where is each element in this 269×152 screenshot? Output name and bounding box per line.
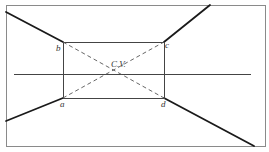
label-d: d [161, 99, 166, 109]
converging-lines [6, 5, 254, 146]
diagram-frame [7, 6, 266, 147]
label-b: b [56, 43, 61, 53]
converging-line-to-b [6, 12, 63, 42]
perspective-diagram: b c a d C.V. [0, 0, 269, 152]
converging-line-to-a [6, 98, 63, 121]
label-c: c [165, 40, 169, 50]
converging-line-to-d [164, 98, 254, 146]
converging-line-to-c [164, 5, 210, 42]
label-center-of-vision: C.V. [111, 59, 126, 69]
label-a: a [60, 99, 65, 109]
